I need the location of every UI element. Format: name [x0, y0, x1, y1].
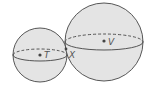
- tangent-spheres-diagram: T V X: [0, 0, 152, 85]
- sphere-large: V: [65, 3, 143, 81]
- sphere-small: T: [13, 28, 67, 82]
- label-v: V: [108, 37, 115, 47]
- tangent-point-x: [65, 48, 68, 51]
- center-point-v: [102, 39, 105, 42]
- diagram-svg: T V X: [0, 0, 152, 85]
- center-point-t: [38, 53, 41, 56]
- label-x: X: [68, 50, 76, 60]
